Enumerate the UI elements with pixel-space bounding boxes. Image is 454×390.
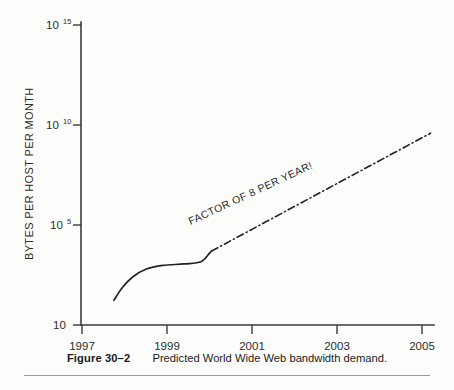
y-axis-ticklabels: 10 15 10 10 10 5 10: [46, 17, 71, 331]
figure-caption-label: Figure 30–2: [67, 352, 130, 364]
y-ticklabel-base-0: 10: [53, 319, 66, 331]
chart-plot: BYTES PER HOST PER MONTH 10 15 10 10 10 …: [0, 0, 454, 390]
y-ticklabel-exp-1: 5: [67, 217, 71, 226]
figure-caption-bar: Figure 30–2 Predicted World Wide Web ban…: [0, 350, 454, 390]
y-ticklabel-base-1: 10: [50, 219, 63, 231]
series-historical: [114, 251, 212, 300]
figure-caption: Figure 30–2 Predicted World Wide Web ban…: [0, 352, 454, 364]
figure-caption-text: Predicted World Wide Web bandwidth deman…: [152, 352, 387, 364]
figure-container: BYTES PER HOST PER MONTH 10 15 10 10 10 …: [0, 0, 454, 390]
y-ticklabel-exp-3: 15: [63, 17, 71, 26]
y-axis-ticks: [73, 25, 81, 325]
x-axis-ticks: [82, 325, 422, 334]
y-ticklabel-exp-2: 10: [63, 117, 71, 126]
y-ticklabel-base-2: 10: [46, 119, 59, 131]
caption-divider: [24, 375, 430, 376]
y-ticklabel-base-3: 10: [46, 19, 59, 31]
y-axis-title: BYTES PER HOST PER MONTH: [23, 87, 35, 260]
annotation-factor-of-8: FACTOR OF 8 PER YEAR!: [186, 159, 314, 227]
